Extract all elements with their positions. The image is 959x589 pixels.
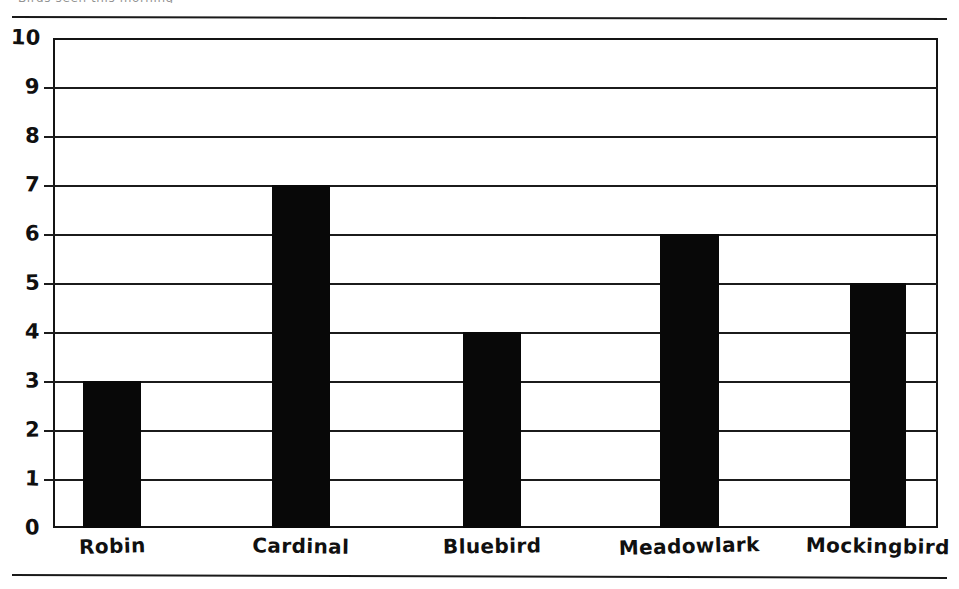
x-axis-label-mockingbird: Mockingbird: [805, 533, 949, 559]
y-axis-label-0: 0: [25, 517, 41, 539]
x-axis-label-robin: Robin: [79, 533, 146, 559]
y-axis-label-7: 7: [25, 174, 40, 195]
y-axis-tick-5: [44, 283, 53, 285]
bar-robin: [83, 381, 141, 528]
y-axis-tick-3: [44, 381, 53, 383]
rule-top: [12, 16, 947, 20]
y-axis-tick-2: [44, 430, 53, 432]
x-axis-label-cardinal: Cardinal: [252, 533, 349, 559]
clipped-caption-fragment: Birds seen this morning: [18, 0, 218, 3]
y-axis-label-9: 9: [25, 76, 41, 98]
rule-bottom: [12, 574, 947, 579]
y-axis-tick-7: [44, 185, 53, 187]
y-axis-label-6: 6: [25, 223, 41, 245]
y-axis-label-1: 1: [25, 468, 40, 489]
y-axis-label-2: 2: [25, 419, 40, 440]
bar-meadowlark: [660, 234, 718, 528]
gridline-5: [53, 283, 938, 285]
gridline-9: [53, 87, 938, 89]
gridline-6: [53, 234, 938, 236]
y-axis-tick-8: [44, 136, 53, 138]
gridline-8: [53, 136, 938, 138]
y-axis-tick-6: [44, 234, 53, 236]
y-axis-label-5: 5: [25, 272, 40, 293]
y-axis-tick-1: [44, 479, 53, 481]
x-axis-label-bluebird: Bluebird: [443, 533, 542, 558]
y-axis-label-10: 10: [10, 27, 40, 49]
bar-cardinal: [272, 185, 330, 528]
y-axis-tick-4: [44, 332, 53, 334]
gridline-7: [53, 185, 938, 187]
y-axis-label-3: 3: [25, 370, 41, 392]
y-axis-label-4: 4: [25, 321, 40, 342]
y-axis-label-8: 8: [25, 125, 40, 146]
y-axis-tick-9: [44, 87, 53, 89]
x-axis-label-meadowlark: Meadowlark: [619, 532, 761, 560]
bar-bluebird: [463, 332, 521, 528]
bar-chart: 012345678910: [53, 38, 938, 528]
bar-mockingbird: [850, 283, 907, 528]
